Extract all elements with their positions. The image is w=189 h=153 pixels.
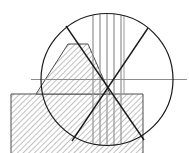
figure-container <box>0 0 189 153</box>
ground-hatch-fill <box>11 94 143 153</box>
geometric-diagram <box>0 0 189 153</box>
ground-hatch-group <box>11 94 143 153</box>
